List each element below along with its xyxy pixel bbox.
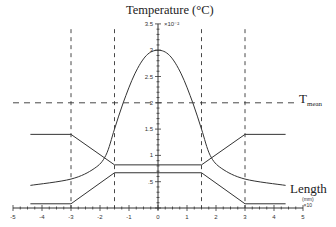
x-multiplier: ×10 xyxy=(302,202,314,208)
y-tick-label: 1.5 xyxy=(145,126,154,132)
tmean-label: Tmean xyxy=(299,91,322,108)
y-tick-label: 3.5 xyxy=(145,21,154,27)
x-tick-label: 3 xyxy=(243,214,247,220)
x-axis-label: Length xyxy=(290,181,327,197)
y-tick-label: .5 xyxy=(148,179,154,185)
y-tick-label: 2.5 xyxy=(145,74,154,80)
chart-title: Temperature (°C) xyxy=(126,3,214,18)
x-tick-label: 0 xyxy=(156,214,160,220)
x-tick-label: -4 xyxy=(39,214,45,220)
x-axis-unit: (mm)×10 xyxy=(302,196,314,208)
x-tick-label: -3 xyxy=(68,214,74,220)
x-tick-label: -2 xyxy=(97,214,103,220)
y-tick-label: 1 xyxy=(150,152,154,158)
chart-canvas: -5-4-3-2-1012345.511.522.533.5×10⁻² xyxy=(0,0,336,227)
x-tick-label: -1 xyxy=(126,214,132,220)
x-tick-label: 4 xyxy=(272,214,276,220)
tmean-main: T xyxy=(299,91,307,106)
x-tick-label: 1 xyxy=(185,214,189,220)
y-multiplier: ×10⁻² xyxy=(164,21,179,27)
tmean-sub: mean xyxy=(307,100,322,108)
x-tick-label: 2 xyxy=(214,214,218,220)
x-tick-label: 5 xyxy=(301,214,305,220)
x-tick-label: -5 xyxy=(10,214,16,220)
